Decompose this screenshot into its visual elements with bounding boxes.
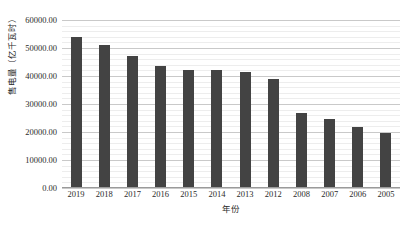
- bar: [240, 72, 251, 188]
- bar: [71, 37, 82, 188]
- bar-slot: [175, 20, 203, 188]
- bar-slot: [259, 20, 287, 188]
- bar: [99, 45, 110, 188]
- x-tick-label: 2008: [287, 190, 315, 199]
- bar: [211, 70, 222, 188]
- bar-chart: 售电量（亿千瓦时） 0.0010000.0020000.0030000.0040…: [0, 0, 404, 227]
- bar: [127, 56, 138, 188]
- x-tick-label: 2006: [344, 190, 372, 199]
- y-tick-label: 0.00: [42, 184, 57, 193]
- bar-slot: [118, 20, 146, 188]
- bar: [352, 127, 363, 188]
- x-axis-title: 年份: [62, 205, 400, 214]
- x-tick-label: 2014: [203, 190, 231, 199]
- y-tick-label: 60000.00: [25, 16, 57, 25]
- bar: [380, 133, 391, 188]
- x-tick-label: 2018: [90, 190, 118, 199]
- y-tick-label: 20000.00: [25, 128, 57, 137]
- bar-slot: [344, 20, 372, 188]
- y-axis-tick-labels: 0.0010000.0020000.0030000.0040000.005000…: [0, 0, 62, 227]
- bar-slot: [372, 20, 400, 188]
- bars-layer: [62, 20, 400, 188]
- x-tick-label: 2016: [147, 190, 175, 199]
- x-tick-label: 2005: [372, 190, 400, 199]
- x-axis-baseline: [62, 187, 400, 188]
- x-tick-label: 2013: [231, 190, 259, 199]
- bar: [183, 70, 194, 188]
- bar: [268, 79, 279, 188]
- x-tick-label: 2015: [175, 190, 203, 199]
- x-tick-label: 2012: [259, 190, 287, 199]
- bar-slot: [90, 20, 118, 188]
- bar-slot: [147, 20, 175, 188]
- bar-slot: [316, 20, 344, 188]
- bar: [155, 66, 166, 188]
- bar-slot: [287, 20, 315, 188]
- bar-slot: [231, 20, 259, 188]
- bar: [296, 113, 307, 188]
- x-axis-tick-labels: 2019201820172016201520142013201220082007…: [62, 190, 400, 199]
- bar: [324, 119, 335, 188]
- x-tick-label: 2017: [118, 190, 146, 199]
- x-tick-label: 2007: [316, 190, 344, 199]
- x-tick-label: 2019: [62, 190, 90, 199]
- y-tick-label: 10000.00: [25, 156, 57, 165]
- bar-slot: [62, 20, 90, 188]
- y-tick-label: 40000.00: [25, 72, 57, 81]
- y-tick-label: 30000.00: [25, 100, 57, 109]
- bar-slot: [203, 20, 231, 188]
- y-tick-label: 50000.00: [25, 44, 57, 53]
- plot-area: [62, 20, 400, 188]
